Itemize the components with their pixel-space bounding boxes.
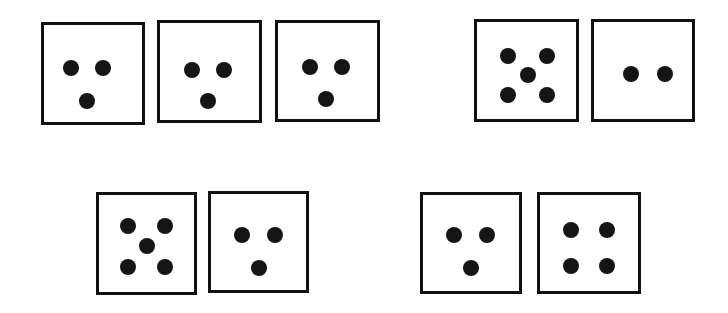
card-dot — [120, 259, 136, 275]
card-dot — [500, 87, 516, 103]
card-dot — [563, 258, 579, 274]
card-dot — [63, 60, 79, 76]
dot-card — [537, 192, 641, 294]
card-dot — [184, 62, 200, 78]
card-dot — [234, 227, 250, 243]
card-dot — [157, 259, 173, 275]
dot-card — [96, 192, 197, 295]
card-dot — [599, 258, 615, 274]
card-dot — [157, 218, 173, 234]
card-dot — [479, 227, 495, 243]
card-dot — [302, 59, 318, 75]
card-dot — [539, 48, 555, 64]
card-dot — [79, 93, 95, 109]
dot-card — [157, 20, 262, 123]
card-dot — [334, 59, 350, 75]
card-dot — [500, 48, 516, 64]
dot-card — [474, 19, 579, 122]
dot-card — [275, 20, 380, 122]
card-dot — [216, 62, 232, 78]
dot-card — [41, 22, 145, 125]
card-dot — [139, 238, 155, 254]
card-dot — [446, 227, 462, 243]
card-dot — [200, 93, 216, 109]
dot-card — [420, 192, 522, 294]
card-dot — [318, 91, 334, 107]
card-dot — [539, 87, 555, 103]
card-dot — [623, 66, 639, 82]
dot-card-canvas — [0, 0, 728, 313]
card-dot — [251, 260, 267, 276]
card-dot — [267, 227, 283, 243]
card-dot — [520, 67, 536, 83]
dot-card — [591, 19, 695, 122]
card-dot — [95, 60, 111, 76]
card-dot — [463, 260, 479, 276]
card-dot — [563, 222, 579, 238]
card-dot — [120, 218, 136, 234]
card-dot — [657, 66, 673, 82]
card-dot — [599, 222, 615, 238]
dot-card — [208, 191, 309, 293]
